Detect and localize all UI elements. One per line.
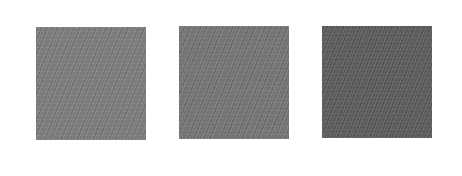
texture-swatch-2 (179, 26, 289, 139)
texture-swatch-3 (322, 26, 432, 138)
texture-pattern (36, 27, 146, 140)
texture-swatch-1 (36, 27, 146, 140)
texture-pattern (322, 26, 432, 138)
texture-pattern (179, 26, 289, 139)
